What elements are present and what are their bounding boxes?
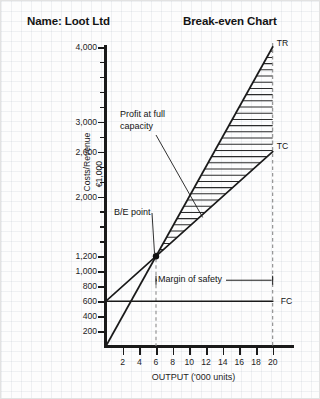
x-tick (123, 348, 125, 355)
y-tick (98, 286, 106, 288)
y-tick (98, 316, 106, 318)
x-tick-label: 14 (218, 357, 228, 367)
annotation-margin-of-safety: Margin of safety (158, 274, 222, 286)
x-tick-label: 4 (137, 357, 142, 367)
y-tick-label: 400 (83, 311, 97, 321)
annotation-break-even-point: B/E point (114, 207, 151, 219)
y-axis-title: Costs/Revenue (82, 117, 92, 207)
x-tick (156, 348, 158, 355)
company-name-title: Name: Loot Ltd (27, 15, 110, 27)
y-tick (98, 47, 106, 49)
x-tick-label: 18 (251, 357, 261, 367)
y-tick (98, 256, 106, 258)
x-tick (139, 348, 141, 355)
y-tick (98, 331, 106, 333)
x-tick-label: 20 (268, 357, 278, 367)
x-tick (223, 348, 225, 355)
y-tick-label: 600 (83, 296, 97, 306)
x-tick (206, 348, 208, 355)
plot-area: 2004006008001,0001,2002,0002,6003,0004,0… (106, 47, 281, 346)
x-tick-label: 2 (120, 357, 125, 367)
annotation-profit-at-full-capacity: Profit at full capacity (120, 109, 182, 132)
y-tick (98, 301, 106, 303)
breakeven-chart-page: Name: Loot Ltd Break-even Chart 20040060… (0, 0, 320, 399)
x-tick (189, 348, 191, 355)
x-tick (256, 348, 258, 355)
page-title: Break-even Chart (183, 15, 277, 27)
y-axis-unit-label: €1,000 (94, 139, 104, 209)
break-even-point-marker (153, 253, 159, 259)
x-tick-label: 10 (185, 357, 195, 367)
y-tick (98, 122, 106, 124)
chart-svg-layer (106, 47, 281, 346)
x-tick (173, 348, 175, 355)
annotation-leader-lines (152, 135, 273, 285)
x-tick (239, 348, 241, 355)
leader-be (152, 213, 155, 253)
x-tick-label: 6 (154, 357, 159, 367)
profit-hatch-fill (106, 45, 281, 256)
leader-profit (156, 135, 203, 217)
x-axis-title: OUTPUT ('000 units) (106, 372, 281, 382)
x-tick-label: 16 (235, 357, 245, 367)
y-tick-label: 800 (83, 281, 97, 291)
y-tick-label: 1,000 (75, 266, 97, 276)
y-tick-label: 200 (83, 326, 97, 336)
series-label-tr: TR (277, 38, 288, 48)
series-label-fc: FC (281, 296, 292, 306)
x-tick (273, 348, 275, 355)
chart-series-lines (106, 47, 273, 346)
y-tick-label: 1,200 (75, 251, 97, 261)
y-tick (98, 271, 106, 273)
series-label-tc: TC (277, 141, 288, 151)
x-tick-label: 8 (170, 357, 175, 367)
x-tick-label: 12 (201, 357, 211, 367)
y-tick-label: 4,000 (75, 42, 97, 52)
